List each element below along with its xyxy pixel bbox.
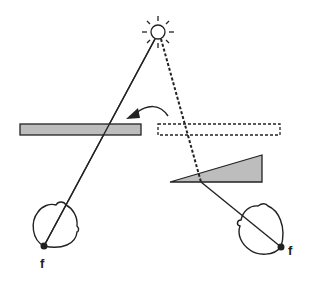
sun-icon xyxy=(142,16,174,48)
arrow-icon xyxy=(126,107,168,119)
wedge xyxy=(170,155,262,182)
ray-solid-overlay xyxy=(44,39,155,246)
diagram-canvas xyxy=(0,0,310,281)
fovea-label-right: f xyxy=(288,243,292,258)
ray-refracted xyxy=(201,182,281,247)
right-eye xyxy=(237,204,283,254)
solid-bar xyxy=(20,124,141,135)
left-eye xyxy=(33,202,78,249)
fovea-label-left: f xyxy=(40,256,44,271)
diagram: f f xyxy=(0,0,310,281)
dashed-bar xyxy=(158,124,280,135)
ray-dashed xyxy=(161,39,201,182)
